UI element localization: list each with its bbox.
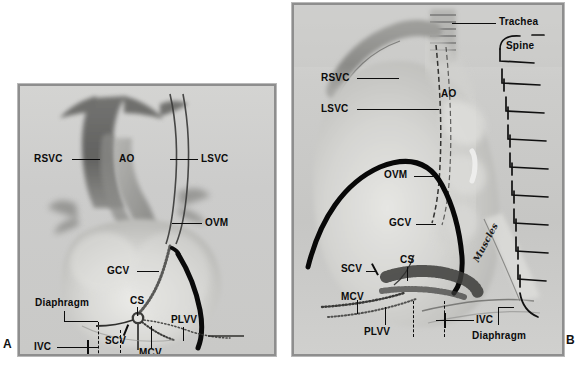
label-scv-panel-b: SCV <box>341 264 362 274</box>
leader-ivc-b <box>436 320 474 321</box>
label-trachea-panel-b: Trachea <box>499 17 538 27</box>
label-ovm-panel-b: OVM <box>384 170 407 180</box>
dashed-line-right-b <box>444 301 445 337</box>
label-spine-panel-b: Spine <box>506 41 534 51</box>
label-gcv-panel-a: GCV <box>107 266 129 276</box>
leader-ivc-tick-a <box>87 340 89 355</box>
label-diaphragm-panel-b: Diaphragm <box>472 331 526 341</box>
leader-cs-b <box>407 267 408 281</box>
leader-gcv-b <box>416 224 436 225</box>
leader-mcv-b <box>357 300 358 314</box>
leader-rsvc-b <box>357 78 399 79</box>
label-plvv-panel-b: PLVV <box>364 327 390 337</box>
dashed-line-left-b <box>413 301 414 337</box>
label-gcv-panel-b: GCV <box>389 218 411 228</box>
leader-rsvc-a <box>72 159 100 160</box>
label-mcv-panel-b: MCV <box>341 292 364 302</box>
label-rsvc-panel-a: RSVC <box>34 154 63 164</box>
leader-lsvc-b <box>357 109 439 110</box>
label-rsvc-panel-b: RSVC <box>321 73 350 83</box>
label-ovm-panel-a: OVM <box>205 218 228 228</box>
panel-letter-b: B <box>566 333 575 347</box>
leader-plvv-b <box>385 307 386 325</box>
leader-cs-a <box>137 307 138 316</box>
figure-root: RSVC AO LSVC OVM GCV CS SCV MCV PLVV Dia… <box>0 0 583 369</box>
panel-b-inner: Trachea Spine RSVC LSVC AO OVM GCV CS SC… <box>294 5 562 354</box>
panel-a-background-wash <box>20 86 274 354</box>
leader-diaphragm-rule-b <box>498 307 514 308</box>
label-ivc-panel-b: IVC <box>476 315 493 325</box>
label-plvv-panel-a: PLVV <box>171 315 197 325</box>
label-diaphragm-panel-a: Diaphragm <box>35 298 89 308</box>
leader-trachea-b <box>452 23 496 24</box>
leader-gcv-a <box>137 271 159 272</box>
label-cs-panel-a: CS <box>130 296 144 306</box>
label-mcv-panel-a: MCV <box>139 348 162 356</box>
label-ivc-panel-a: IVC <box>34 342 51 352</box>
label-ao-panel-b: AO <box>441 89 456 99</box>
panel-letter-a: A <box>3 337 12 351</box>
panel-b-background-wash <box>294 5 562 354</box>
label-lsvc-panel-a: LSVC <box>201 154 228 164</box>
panel-a: RSVC AO LSVC OVM GCV CS SCV MCV PLVV Dia… <box>18 84 276 356</box>
leader-mcv-a <box>151 326 152 348</box>
label-lsvc-panel-b: LSVC <box>321 104 348 114</box>
dashed-line-left-a <box>98 322 99 356</box>
label-ao-panel-a: AO <box>119 154 134 164</box>
leader-diaphragm-b <box>498 307 499 325</box>
label-scv-panel-a: SCV <box>105 336 126 346</box>
leader-ivc-a <box>57 347 98 348</box>
leader-ovm-b <box>414 176 436 177</box>
panel-a-inner: RSVC AO LSVC OVM GCV CS SCV MCV PLVV Dia… <box>20 86 274 354</box>
leader-diaphragm-rule-a <box>64 321 98 322</box>
panel-b: Trachea Spine RSVC LSVC AO OVM GCV CS SC… <box>292 3 564 356</box>
leader-scv-stem-b <box>366 271 376 272</box>
label-cs-panel-b: CS <box>400 255 414 265</box>
leader-lsvc-a <box>170 159 198 160</box>
leader-plvv-a <box>183 327 184 341</box>
leader-ovm-a <box>172 223 202 224</box>
